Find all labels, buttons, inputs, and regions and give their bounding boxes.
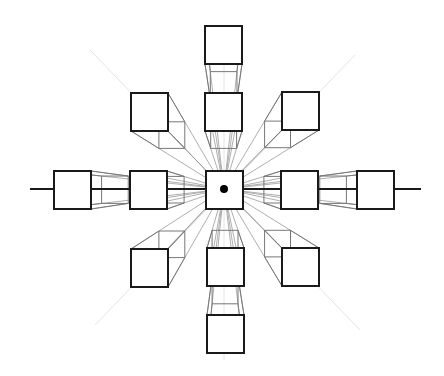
cube-receding-edge bbox=[264, 171, 281, 176]
cube-receding-edge bbox=[167, 203, 184, 209]
cube-receding-edge bbox=[291, 130, 320, 148]
cube-receding-edge bbox=[168, 131, 185, 148]
cube-receding-edge bbox=[265, 92, 282, 121]
perspective-diagram bbox=[0, 0, 444, 376]
cube-receding-edge bbox=[265, 230, 282, 248]
cube-upper-right bbox=[282, 92, 319, 130]
cube-bottom bbox=[207, 315, 244, 353]
vanishing-point bbox=[220, 185, 228, 193]
cube-receding-edge bbox=[265, 130, 282, 148]
cube-receding-edge bbox=[168, 231, 185, 249]
cube-receding-edge bbox=[131, 231, 159, 249]
cube-top-far bbox=[205, 26, 242, 64]
cube-receding-edge bbox=[207, 230, 212, 248]
cube-receding-edge bbox=[237, 131, 242, 148]
cube-mid-left bbox=[130, 171, 167, 209]
cube-lower-right bbox=[282, 248, 319, 286]
cube-receding-edge bbox=[264, 203, 281, 209]
cube-receding-edge bbox=[168, 93, 185, 122]
cube-mid-far-right bbox=[357, 171, 394, 209]
cube-upper-left bbox=[131, 93, 168, 131]
cube-mid-right bbox=[281, 171, 318, 209]
cube-receding-edge bbox=[238, 230, 244, 248]
cube-receding-edge bbox=[291, 230, 320, 248]
cube-top-near bbox=[205, 93, 242, 131]
cube-lower-left bbox=[131, 249, 168, 287]
cube-lower-center bbox=[207, 248, 244, 286]
cube-receding-edge bbox=[168, 258, 185, 287]
cube-receding-edge bbox=[167, 171, 184, 176]
cube-receding-edge bbox=[131, 131, 159, 148]
cube-mid-far-left bbox=[54, 171, 91, 209]
cube-receding-edge bbox=[265, 257, 282, 286]
cube-receding-edge bbox=[205, 131, 211, 148]
